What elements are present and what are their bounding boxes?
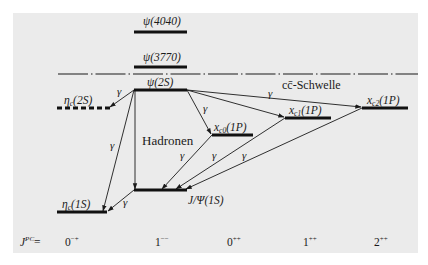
- transition-psi2s-chic0: [187, 90, 211, 134]
- label-jpsi-1s: J/Ψ(1S): [188, 195, 224, 207]
- label-chic1-1p: xc1(1P): [289, 105, 322, 118]
- jpc-col-3: 1++: [303, 236, 317, 249]
- gamma-psi2s-chic0: γ: [203, 103, 207, 114]
- transition-jpsi-etac1s: [108, 190, 134, 211]
- gamma-chic2-jpsi: γ: [242, 150, 246, 161]
- label-etac-1s: ηc(1S): [62, 199, 90, 212]
- jpc-col-2: 0++: [227, 236, 241, 249]
- threshold-label: cc̄-Schwelle: [282, 79, 341, 91]
- label-etac-2s: ηc(2S): [64, 95, 92, 108]
- jpc-label: JPC=: [20, 236, 41, 249]
- label-psi-4040: ψ(4040): [143, 16, 181, 28]
- jpc-col-0: 0−+: [65, 236, 79, 249]
- gamma-jpsi-etac1s: γ: [123, 197, 127, 208]
- label-psi-2s: ψ(2S): [147, 77, 173, 89]
- transition-psi2s-chic2: [187, 90, 361, 107]
- jpc-col-1: 1−−: [155, 236, 169, 249]
- gamma-psi2s-etac1s: γ: [110, 140, 114, 151]
- label-chic2-1p: xc2(1P): [367, 95, 400, 108]
- gamma-chic0-jpsi: γ: [180, 150, 184, 161]
- label-psi-3770: ψ(3770): [143, 52, 181, 64]
- gamma-psi2s-chic2: γ: [268, 88, 272, 99]
- gamma-psi2s-etac2s: γ: [117, 86, 121, 97]
- gamma-chic1-jpsi: γ: [212, 150, 216, 161]
- label-chic0-1p: xc0(1P): [214, 122, 247, 135]
- jpc-col-4: 2++: [374, 236, 388, 249]
- hadrons-label: Hadronen: [142, 134, 193, 147]
